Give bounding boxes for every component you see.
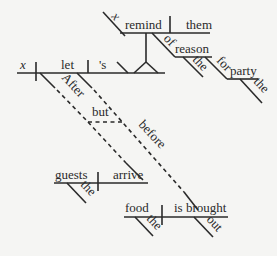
- main-object: 's: [99, 57, 106, 72]
- clause-guests-arrive: guests arrive the: [54, 167, 148, 203]
- fork-left: [134, 62, 146, 73]
- clause1-verb: arrive: [113, 167, 144, 182]
- after-dashed-lower: [88, 122, 126, 163]
- object-complement-slash: [117, 62, 128, 73]
- main-verb: let: [61, 57, 74, 72]
- clause1-subject: guests: [55, 167, 88, 182]
- conjunction-before: before: [136, 117, 170, 152]
- upper-verb: remind: [125, 17, 162, 32]
- prep-for-object: party: [230, 63, 257, 78]
- subordinate-connectors: After but before: [40, 70, 198, 210]
- after-dashed-upper: [57, 90, 88, 122]
- conjunction-but: but: [92, 104, 109, 119]
- sentence-diagram: x let 's x remind them of reason the for…: [0, 0, 277, 256]
- upper-object: them: [186, 17, 212, 32]
- fork-right: [146, 62, 158, 73]
- clause-food-brought: food is brought the out: [124, 200, 228, 237]
- clause2-verb: is brought: [174, 200, 227, 215]
- clause2-subject: food: [125, 200, 149, 215]
- prep-of-object: reason: [175, 41, 209, 56]
- upper-clause: x remind them of reason the for party th…: [103, 8, 273, 103]
- main-subject: x: [19, 57, 26, 72]
- after-solid: [40, 73, 55, 88]
- main-clause: x let 's: [17, 33, 165, 81]
